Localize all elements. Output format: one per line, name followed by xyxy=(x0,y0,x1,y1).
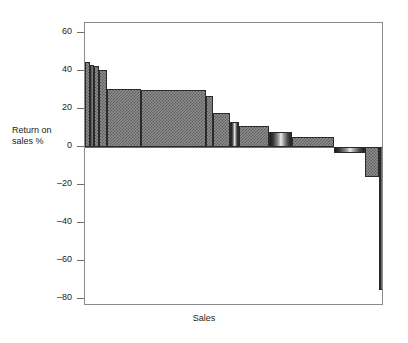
bar-14 xyxy=(365,147,379,177)
bar-12 xyxy=(292,137,334,147)
y-axis-tick-label: 20 xyxy=(62,103,72,112)
y-axis-tick xyxy=(77,222,84,223)
plot-area xyxy=(84,22,383,305)
plot-inner xyxy=(85,23,382,304)
bar-6 xyxy=(141,90,207,147)
y-axis-tick xyxy=(77,70,84,71)
bar-5 xyxy=(107,89,141,147)
y-axis-tick xyxy=(77,32,84,33)
bar-4 xyxy=(99,70,107,147)
y-axis-tick-label: 0 xyxy=(67,141,72,150)
bar-11 xyxy=(269,132,292,147)
y-axis-tick xyxy=(77,260,84,261)
y-axis-title: Return on sales % xyxy=(12,125,70,147)
y-axis-tick-label: –80 xyxy=(57,293,72,302)
bar-10 xyxy=(239,126,269,147)
y-axis-title-line-2: sales % xyxy=(12,136,70,147)
y-axis-tick xyxy=(77,298,84,299)
y-axis-tick xyxy=(77,108,84,109)
y-axis-tick-label: –20 xyxy=(57,179,72,188)
y-axis-tick-label: –60 xyxy=(57,255,72,264)
y-axis-tick-label: –40 xyxy=(57,217,72,226)
bar-8 xyxy=(213,113,230,147)
x-axis-title: Sales xyxy=(0,313,408,323)
y-axis-tick-label: 40 xyxy=(62,65,72,74)
y-axis-tick xyxy=(77,184,84,185)
chart-container: Return on sales % 6040200–20–40–60–80 Sa… xyxy=(0,0,408,343)
bar-15 xyxy=(379,147,382,290)
bar-9 xyxy=(230,122,239,147)
y-axis-tick xyxy=(77,146,84,147)
y-axis-tick-label: 60 xyxy=(62,27,72,36)
bar-13 xyxy=(334,147,365,153)
y-axis-title-line-1: Return on xyxy=(12,125,70,136)
